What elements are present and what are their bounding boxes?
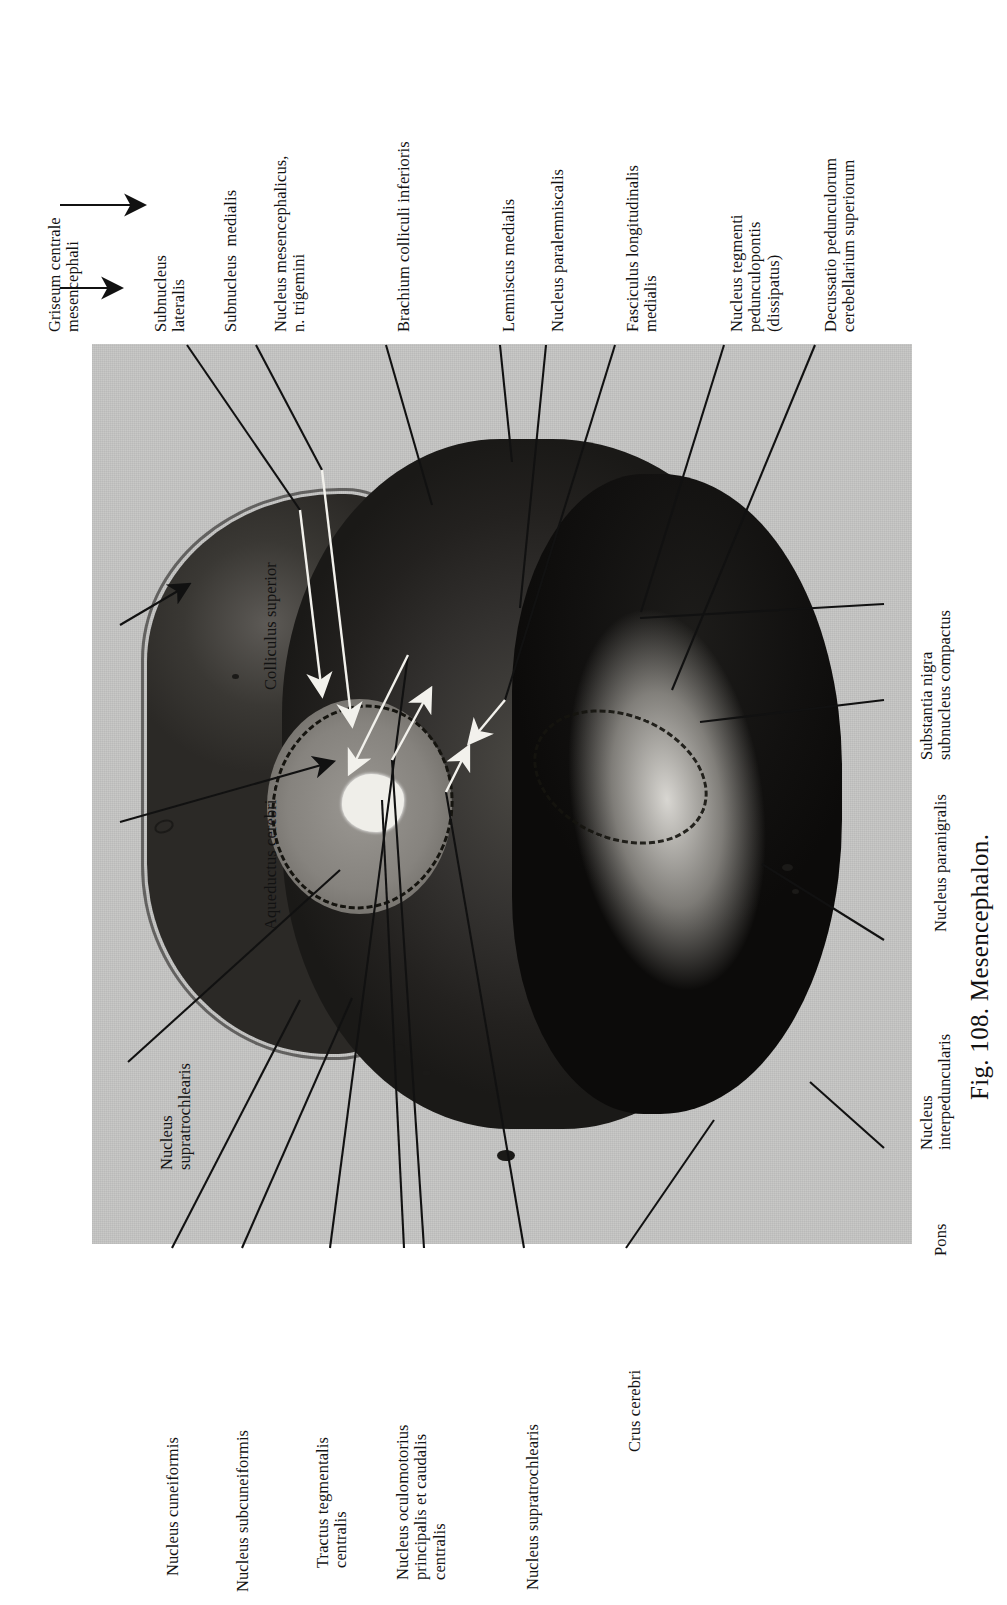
label-tractus-tegmentalis-centralis: Tractus tegmentalis centralis <box>314 1437 351 1568</box>
histology-plate <box>92 344 912 1244</box>
label-pons: Pons <box>932 1224 950 1257</box>
plate-speck <box>392 1044 405 1052</box>
figure-caption: Fig. 108. Mesencephalon. <box>966 834 994 1100</box>
label-lemniscus-medialis: Lemniscus medialis <box>500 199 518 332</box>
label-brachium-colliculi-inferioris: Brachium colliculi inferioris <box>395 141 413 332</box>
label-nucleus-tegmenti-pedunculopontis: Nucleus tegmenti pedunculopontis (dissip… <box>728 214 783 332</box>
plate-speck <box>232 674 239 679</box>
label-nucleus-oculomotorius-principalis-et-caudalis-centralis: Nucleus oculomotorius principalis et cau… <box>394 1424 449 1580</box>
aqueductus-cerebri-lumen <box>342 774 404 832</box>
label-subnucleus-medialis: Subnucleus medialis <box>222 190 240 332</box>
label-decussatio-pedunculorum-cerebellarium-superiorum: Decussatio pedunculorum cerebellarium su… <box>822 158 859 332</box>
label-fasciculus-longitudinalis-medialis: Fasciculus longitudinalis medialis <box>624 165 661 332</box>
label-nucleus-mesencephalicus-n-trigemini: Nucleus mesencephalicus, n. trigemini <box>272 155 309 332</box>
label-aqueductus-cerebri: Aqueductus cerebri <box>262 799 280 930</box>
label-nucleus-supratrochlearis-bottom: Nucleus supratrochlearis <box>524 1424 542 1590</box>
label-nucleus-subcuneiformis: Nucleus subcuneiformis <box>234 1430 252 1592</box>
label-subnucleus-lateralis: Subnucleus lateralis <box>152 255 189 332</box>
plate-speck <box>422 1070 431 1076</box>
label-crus-cerebri: Crus cerebri <box>626 1370 644 1452</box>
plate-speck <box>792 889 799 894</box>
plate-speck <box>497 1150 515 1161</box>
label-nucleus-supratrochlearis-left: Nucleus supratrochlearis <box>158 1063 195 1170</box>
label-nucleus-cuneiformis: Nucleus cuneiformis <box>164 1437 182 1576</box>
label-nucleus-paranigralis: Nucleus paranigralis <box>932 794 950 932</box>
label-griseum-centrale-mesencephali: Griseum centrale mesencephali <box>46 217 83 332</box>
label-colliculus-superior: Colliculus superior <box>262 562 280 690</box>
label-nucleus-paralemniscalis: Nucleus paralemniscalis <box>549 169 567 332</box>
plate-speck <box>782 864 793 871</box>
label-nucleus-interpeduncularis: Nucleus interpeduncularis <box>918 1034 955 1150</box>
label-substantia-nigra-subnucleus-compactus: Substantia nigra subnucleus compactus <box>918 610 955 760</box>
